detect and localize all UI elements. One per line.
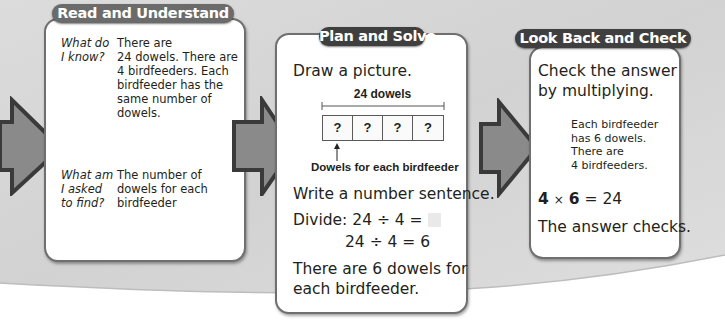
multiplication-equation: 4 × 6 = 24 [538, 189, 622, 210]
question-line: What do [61, 36, 115, 50]
divide-label: Divide: [293, 211, 347, 229]
factor: 4 [538, 190, 549, 208]
conclusion-line: each birdfeeder. [293, 279, 467, 299]
product: = 24 [584, 190, 622, 208]
question-line: I know? [61, 50, 115, 64]
answer-line: 4 birdfeeders. Each [117, 64, 245, 78]
total-bracket [321, 102, 445, 110]
pointer-label: Dowels for each birdfeeder [311, 161, 459, 173]
answer-line: There are [117, 36, 245, 50]
instruction-line: Check the answer [538, 61, 677, 81]
question-line: What am [61, 168, 117, 182]
unknown-box [428, 213, 441, 227]
times-sign: × [554, 193, 564, 207]
conclusion: There are 6 dowels for each birdfeeder. [293, 259, 467, 299]
answer-line: 24 dowels. There are [117, 50, 245, 64]
answer-line: dowels for each [117, 182, 245, 196]
answer-line: birdfeeder [117, 196, 245, 210]
question-what-am-i-asked: What am I asked to find? [61, 168, 117, 210]
instruction-line: by multiplying. [538, 81, 677, 101]
answer-line: birdfeeder has the [117, 78, 245, 92]
bar-diagram: ? ? ? ? [322, 115, 444, 141]
divide-equation-solved: 24 ÷ 4 = 6 [345, 232, 430, 252]
answer-line: The number of [117, 168, 245, 182]
question-line: to find? [61, 196, 117, 210]
equation-unknown: 24 ÷ 4 = [352, 211, 422, 229]
check-instruction: Check the answer by multiplying. [538, 61, 677, 101]
factor: 6 [569, 190, 580, 208]
bar-box: ? [382, 115, 413, 141]
write-sentence-instruction: Write a number sentence. [293, 184, 495, 204]
draw-picture-instruction: Draw a picture. [293, 61, 412, 81]
look-back-and-check-header: Look Back and Check [515, 29, 691, 48]
check-note: Each birdfeeder has 6 dowels. There are … [571, 118, 658, 172]
up-arrow-icon [333, 143, 341, 161]
answer-what-do-i-know: There are 24 dowels. There are 4 birdfee… [117, 36, 245, 120]
divide-equation: Divide: 24 ÷ 4 = [293, 210, 441, 230]
note-line: has 6 dowels. [571, 132, 658, 146]
note-line: Each birdfeeder [571, 118, 658, 132]
note-line: There are [571, 145, 658, 159]
answer-line: same number of [117, 92, 245, 106]
answer-what-am-i-asked: The number of dowels for each birdfeeder [117, 168, 245, 210]
bar-box: ? [352, 115, 383, 141]
note-line: 4 birdfeeders. [571, 159, 658, 173]
total-label: 24 dowels [322, 87, 443, 101]
question-what-do-i-know: What do I know? [61, 36, 115, 64]
read-and-understand-header: Read and Understand [52, 4, 234, 23]
result-statement: The answer checks. [538, 217, 691, 237]
bar-box: ? [322, 115, 353, 141]
bar-box: ? [412, 115, 444, 141]
plan-and-solve-header: Plan and Solve [319, 27, 425, 46]
question-line: I asked [61, 182, 117, 196]
conclusion-line: There are 6 dowels for [293, 259, 467, 279]
answer-line: dowels. [117, 106, 245, 120]
